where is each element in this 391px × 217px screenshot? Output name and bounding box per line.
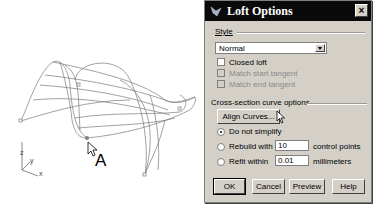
close-icon: × bbox=[359, 5, 365, 16]
point-label: A bbox=[95, 151, 106, 171]
match-end-tangent-checkbox[interactable] bbox=[217, 80, 225, 88]
refit-within-radio[interactable] bbox=[217, 158, 225, 166]
help-button[interactable]: Help bbox=[332, 179, 365, 194]
millimeters-unit-label: millimeters bbox=[313, 157, 351, 166]
loft-surface-wireframe bbox=[0, 0, 210, 217]
rebuild-control-points-input[interactable]: 10 bbox=[275, 140, 309, 151]
loft-options-dialog: Loft Options × Style Normal Closed loft … bbox=[204, 0, 372, 203]
style-dropdown[interactable]: Normal bbox=[215, 42, 327, 54]
do-not-simplify-radio[interactable] bbox=[217, 128, 225, 136]
cross-section-label: Cross-section curve options bbox=[211, 98, 310, 107]
axis-z-label: z bbox=[20, 149, 24, 156]
loft-app-icon bbox=[210, 5, 222, 17]
ok-button[interactable]: OK bbox=[214, 179, 245, 194]
closed-loft-label: Closed loft bbox=[229, 58, 267, 67]
rebuild-with-radio[interactable] bbox=[217, 143, 225, 151]
match-start-tangent-checkbox[interactable] bbox=[217, 69, 225, 77]
preview-button[interactable]: Preview bbox=[289, 179, 325, 194]
style-dropdown-value: Normal bbox=[219, 44, 245, 53]
refit-tolerance-input[interactable]: 0.01 bbox=[275, 155, 309, 166]
chevron-down-icon[interactable] bbox=[315, 44, 325, 52]
match-end-tangent-label: Match end tangent bbox=[229, 80, 295, 89]
closed-loft-checkbox[interactable] bbox=[217, 58, 225, 66]
match-start-tangent-label: Match start tangent bbox=[229, 69, 297, 78]
3d-viewport[interactable]: A z y x bbox=[0, 0, 210, 217]
do-not-simplify-label: Do not simplify bbox=[229, 127, 281, 136]
mouse-pointer-icon bbox=[276, 110, 286, 124]
dialog-titlebar[interactable]: Loft Options × bbox=[205, 1, 371, 21]
control-point-a[interactable] bbox=[85, 136, 89, 140]
axis-x-label: x bbox=[39, 170, 43, 177]
refit-within-label: Refit within bbox=[229, 157, 268, 166]
close-button[interactable]: × bbox=[355, 4, 368, 17]
dialog-title: Loft Options bbox=[227, 4, 293, 19]
cancel-button[interactable]: Cancel bbox=[252, 179, 285, 194]
style-divider bbox=[237, 32, 365, 34]
control-points-unit-label: control points bbox=[313, 142, 361, 151]
axis-y-label: y bbox=[30, 157, 34, 164]
rebuild-with-label: Rebuild with bbox=[229, 142, 273, 151]
cross-section-divider bbox=[307, 103, 367, 105]
align-curves-button[interactable]: Align Curves... bbox=[217, 109, 280, 124]
style-section-label: Style bbox=[215, 27, 233, 36]
